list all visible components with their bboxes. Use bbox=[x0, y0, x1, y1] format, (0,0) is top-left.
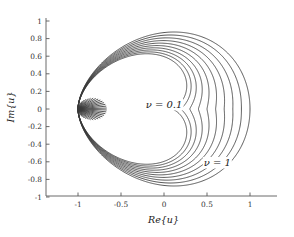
x-tick-label: -1 bbox=[74, 200, 81, 209]
y-tick-label: 0.6 bbox=[30, 52, 42, 61]
y-tick-label: -1 bbox=[35, 193, 42, 202]
level-curve bbox=[78, 46, 209, 173]
y-tick-label: -0.6 bbox=[28, 157, 43, 166]
x-tick-label: 1 bbox=[248, 200, 253, 209]
y-tick-label: 1 bbox=[37, 17, 42, 26]
x-axis-ticks: -1-0.500.51 bbox=[74, 193, 252, 210]
y-tick-label: -0.8 bbox=[28, 175, 43, 184]
annotation-nu-1: ν = 1 bbox=[204, 157, 231, 168]
y-tick-label: 0.4 bbox=[30, 69, 42, 78]
y-axis-label: Im{u} bbox=[5, 92, 16, 124]
y-tick-label: -0.2 bbox=[28, 122, 42, 131]
x-tick-label: 0 bbox=[162, 200, 167, 209]
x-axis-label: Re{u} bbox=[147, 214, 179, 225]
y-tick-label: 0.2 bbox=[30, 87, 42, 96]
plot-canvas: -1-0.500.51 -1-0.8-0.6-0.4-0.200.20.40.6… bbox=[0, 0, 294, 237]
x-tick-label: 0.5 bbox=[201, 200, 213, 209]
x-tick-label: -0.5 bbox=[114, 200, 129, 209]
figure-container: -1-0.500.51 -1-0.8-0.6-0.4-0.200.20.40.6… bbox=[0, 0, 294, 237]
y-tick-label: -0.4 bbox=[28, 140, 43, 149]
annotations-group: ν = 0.1ν = 1 bbox=[145, 99, 232, 169]
y-tick-label: 0 bbox=[37, 105, 42, 114]
annotation-nu-0.1: ν = 0.1 bbox=[146, 99, 183, 110]
y-tick-label: 0.8 bbox=[30, 34, 42, 43]
